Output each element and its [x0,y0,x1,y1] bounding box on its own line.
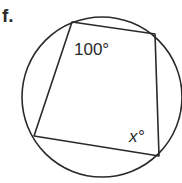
angle-label-100: 100° [74,40,109,59]
angle-label-x: x° [128,127,145,146]
cyclic-quadrilateral-diagram: f. 100° x° [0,0,182,183]
problem-label: f. [2,5,14,26]
